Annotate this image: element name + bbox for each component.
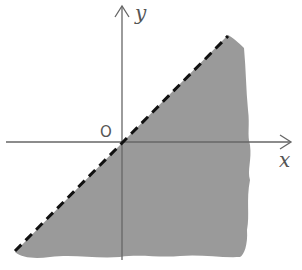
x-axis-label: x	[279, 148, 290, 172]
coordinate-plane: y x O	[0, 0, 302, 270]
shaded-region	[15, 35, 250, 258]
y-axis-label: y	[134, 1, 147, 25]
origin-label: O	[100, 123, 112, 141]
